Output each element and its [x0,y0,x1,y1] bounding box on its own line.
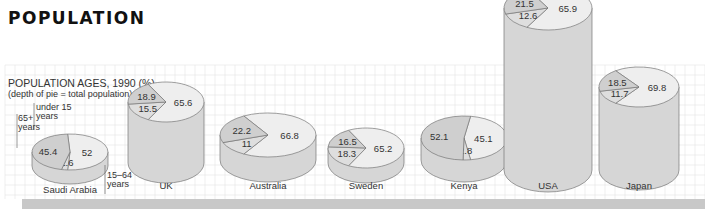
slice-label-under15: 16.5 [338,136,357,147]
country-label: Saudi Arabia [43,184,98,195]
country-label: UK [159,180,173,191]
slice-label-under15: 45.4 [39,146,58,157]
country-label: Japan [626,180,652,191]
pie-side [504,8,592,192]
slice-label-over65: 18.3 [338,148,357,159]
legend-over65: years [18,122,41,132]
population-pie-chart: POPULATION AGES, 1990 (%) (depth of pie … [0,0,705,216]
legend-working: years [107,179,130,189]
country-label: Kenya [451,180,479,191]
slice-label-working: 52 [82,147,93,158]
slice-label-working: 65.9 [559,3,578,14]
slice-label-working: 65.6 [174,97,193,108]
slice-label-working: 69.8 [648,82,667,93]
slice-label-working: 45.1 [474,133,493,144]
slice-label-working: 66.8 [280,130,299,141]
slice-label-under15: 22.2 [233,125,252,136]
slice-label-under15: 18.5 [608,77,627,88]
country-label: Australia [250,180,288,191]
panel-shadow [22,199,705,209]
slice-label-over65: 15.5 [138,103,157,114]
pie-japan: 69.811.718.5Japan [599,67,679,191]
chart-subtitle: (depth of pie = total population) [8,89,132,99]
legend-under15: years [36,111,59,121]
chart-title: POPULATION AGES, 1990 (%) [8,77,155,89]
slice-label-under15: 52.1 [430,131,449,142]
slice-label-under15: 18.9 [137,91,156,102]
pie-usa: 65.912.621.5USA [504,0,592,192]
slice-label-working: 65.2 [374,143,393,154]
country-label: USA [538,180,558,191]
pie-uk: 65.615.518.9UK [128,82,204,191]
pie-saudi-arabia: 522.645.4Saudi Arabia [32,134,108,195]
country-label: Sweden [349,180,383,191]
slice-label-under15: 21.5 [515,0,534,9]
